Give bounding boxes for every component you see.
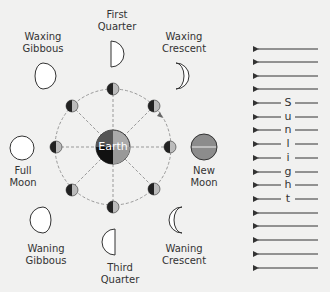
new-moon-label: New Moon [169, 165, 239, 189]
orbit-moon-icon [107, 201, 119, 213]
sunlight-letter: u [281, 111, 295, 123]
label-line: New [169, 165, 239, 177]
sunlight-letter: i [281, 152, 295, 164]
sunlight-letter: t [281, 193, 295, 205]
label-line: Moon [169, 177, 239, 189]
label-line: Crescent [149, 43, 219, 55]
third-quarter-moon-icon [102, 229, 115, 255]
orbit-moon-icon [148, 100, 160, 112]
label-line: Quarter [82, 21, 152, 33]
label-line: Waning [149, 243, 219, 255]
waxing-crescent-label: Waxing Crescent [149, 31, 219, 55]
orbit-moon-icon [107, 83, 119, 95]
waning-gibbous-moon-icon [30, 207, 51, 233]
orbit-direction-arrow-icon [157, 112, 163, 118]
sunlight-letter: l [281, 138, 295, 150]
full-moon-label: Full Moon [0, 165, 58, 189]
label-line: Moon [0, 177, 58, 189]
label-line: Waning [11, 243, 81, 255]
orbit-moon-icon [148, 183, 160, 195]
label-line: Gibbous [8, 43, 78, 55]
earth-label: Earth [98, 140, 128, 153]
label-line: Third [85, 262, 155, 274]
sunlight-letter: g [281, 166, 295, 178]
first-quarter-label: First Quarter [82, 9, 152, 33]
full-moon-icon [10, 136, 34, 160]
orbit-moon-icon [50, 141, 62, 153]
label-line: Gibbous [11, 255, 81, 267]
label-line: Quarter [85, 274, 155, 286]
waning-crescent-moon-icon [169, 207, 182, 233]
sunlight-letter: S [281, 97, 295, 109]
waning-crescent-label: Waning Crescent [149, 243, 219, 267]
label-line: Crescent [149, 255, 219, 267]
sunlight-letter: h [281, 179, 295, 191]
waning-gibbous-label: Waning Gibbous [11, 243, 81, 267]
sunlight-letter: n [281, 124, 295, 136]
waxing-gibbous-moon-icon [35, 63, 56, 89]
orbit-moon-icon [66, 100, 78, 112]
third-quarter-label: Third Quarter [85, 262, 155, 286]
waxing-crescent-moon-icon [176, 63, 189, 89]
orbit-moon-icon [66, 184, 78, 196]
label-line: First [82, 9, 152, 21]
label-line: Waxing [8, 31, 78, 43]
waxing-gibbous-label: Waxing Gibbous [8, 31, 78, 55]
orbit-moon-icon [164, 141, 176, 153]
new-moon-icon [191, 134, 217, 160]
label-line: Full [0, 165, 58, 177]
first-quarter-moon-icon [111, 41, 124, 67]
label-line: Waxing [149, 31, 219, 43]
